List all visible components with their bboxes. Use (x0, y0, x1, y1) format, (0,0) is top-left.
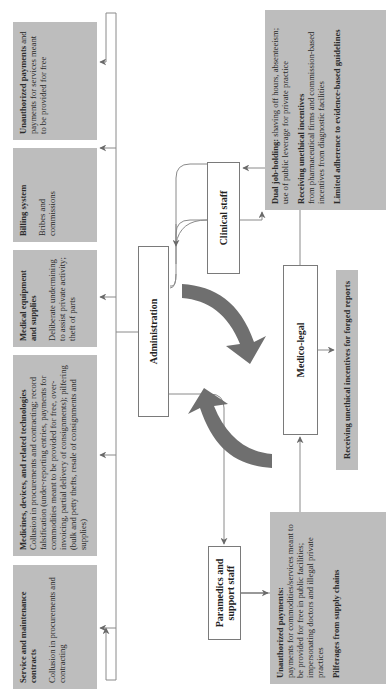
item-title: Receiving unethical incentives for forge… (342, 281, 352, 459)
medical-equipment-box: Medical equipment and supplies Deliberat… (13, 250, 97, 347)
item-body: payments for commodities/services meant … (285, 524, 325, 678)
medico-legal-node: Medico-legal (283, 265, 318, 435)
box-body: Collusion in procurements and contractin… (28, 365, 88, 550)
box-title: Medical equipment and supplies (18, 256, 38, 341)
box-title: Billing system (18, 154, 28, 236)
service-maintenance-box: Service and maintenance contracts Collus… (13, 565, 97, 689)
item-title: Receiving unethical incentives (296, 16, 306, 204)
cycle-arrows (182, 284, 272, 468)
box-body: Deliberate undermining to assist private… (47, 257, 77, 341)
unauthorized-payments-box: Unauthorized payments and payments for s… (13, 22, 97, 140)
clinical-issues-box: Dual job-holding: shaving off hours, abs… (265, 10, 386, 210)
billing-system-box: Billing system Bribes and commissions (13, 148, 97, 242)
item-title: Pilferages from supply chains (331, 518, 341, 678)
administration-node: Administration (138, 246, 169, 417)
paramedics-issues-box: Unauthorized payments: payments for comm… (270, 512, 386, 684)
box-title: Unauthorized payments (18, 46, 28, 134)
medicines-box: Medicines, devices, and related technolo… (13, 355, 97, 556)
box-body: Bribes and commissions (37, 191, 57, 236)
box-body: Collusion in procurements and contractin… (47, 577, 67, 683)
item-body: from pharmaceutical firms and commission… (306, 32, 326, 204)
node-label: Clinical staff (218, 191, 229, 246)
node-label: Administration (148, 299, 159, 365)
item-title: Dual job-holding: (270, 139, 280, 204)
item-title: Unauthorized payments: (275, 518, 285, 678)
node-label: Medico-legal (295, 323, 306, 378)
box-title: Medicines, devices, and related technolo… (18, 361, 28, 550)
paramedics-node: Paramedics and support staff (208, 546, 241, 640)
node-label: Paramedics and support staff (214, 553, 236, 633)
big-curved-arrow-icon (182, 284, 266, 364)
big-curved-arrow-icon (188, 388, 272, 468)
clinical-staff-node: Clinical staff (207, 162, 240, 274)
item-title: Limited adherence to evidence-based guid… (332, 16, 342, 204)
medico-legal-issues-box: Receiving unethical incentives for forge… (336, 270, 358, 470)
box-title: Service and maintenance contracts (18, 571, 38, 683)
corruption-diagram: Service and maintenance contracts Collus… (0, 0, 391, 694)
